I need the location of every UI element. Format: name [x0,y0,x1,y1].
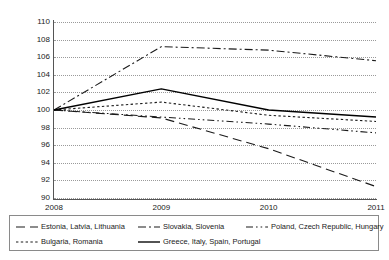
legend-item[interactable]: Poland, Czech Republic, Hungary [246,219,384,234]
x-tick-label: 2010 [260,203,278,213]
legend-row: Bulgaria, RomaniaGreece, Italy, Spain, P… [10,234,378,249]
legend-label: Bulgaria, Romania [41,237,103,246]
series-line [54,110,376,187]
y-tick-label: 98 [4,124,50,132]
y-axis-tick-labels: 9092949698100102104106108110 [0,22,50,198]
y-tick-label: 102 [4,88,50,96]
y-tick-label: 96 [4,141,50,149]
line-chart: 9092949698100102104106108110 20082009201… [0,0,389,260]
x-tick-label: 2009 [152,203,170,213]
x-tick-label: 2011 [367,203,384,213]
y-tick-label: 108 [4,36,50,44]
legend-item[interactable]: Bulgaria, Romania [16,234,103,249]
gridline [54,198,376,199]
y-tick-label: 94 [4,159,50,167]
series-line [54,89,376,117]
legend-swatch-long-dash-icon [16,222,38,232]
legend-label: Greece, Italy, Spain, Portugal [163,237,260,246]
y-tick-label: 110 [4,18,50,26]
legend-label: Estonia, Latvia, Lithuania [41,222,125,231]
x-tick-label: 2008 [45,203,63,213]
legend-swatch-dash-dot-icon [138,222,160,232]
legend-label: Poland, Czech Republic, Hungary [271,222,384,231]
y-tick-label: 104 [4,71,50,79]
legend-swatch-dotted-icon [16,237,38,247]
legend-item[interactable]: Greece, Italy, Spain, Portugal [138,234,260,249]
y-tick-label: 106 [4,53,50,61]
legend-item[interactable]: Estonia, Latvia, Lithuania [16,219,125,234]
series-lines [54,22,376,198]
y-tick-label: 92 [4,176,50,184]
legend-swatch-dash-dot-dot-icon [246,222,268,232]
legend-row: Estonia, Latvia, LithuaniaSlovakia, Slov… [10,219,378,234]
legend-label: Slovakia, Slovenia [163,222,224,231]
legend-item[interactable]: Slovakia, Slovenia [138,219,224,234]
legend: Estonia, Latvia, LithuaniaSlovakia, Slov… [9,215,379,251]
y-tick-label: 90 [4,194,50,202]
plot-area [54,22,376,198]
y-tick-label: 100 [4,106,50,114]
x-axis-line [53,199,377,200]
series-line [54,102,376,121]
legend-swatch-solid-icon [138,237,160,247]
